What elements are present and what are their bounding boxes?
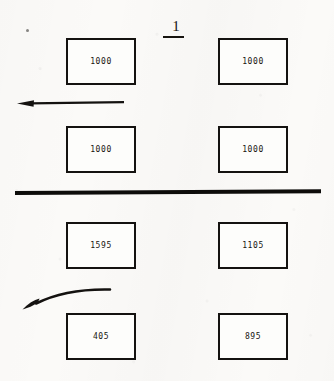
diagram-box: 1000 <box>218 38 288 85</box>
straight-arrow-left-icon <box>14 95 126 111</box>
diagram-box-label: 895 <box>245 332 261 341</box>
scan-speck-artifact <box>26 29 29 32</box>
diagram-box-label: 405 <box>93 332 109 341</box>
diagram-box-label: 1000 <box>90 145 112 154</box>
diagram-box-label: 1105 <box>242 241 264 250</box>
section-divider-rule <box>15 189 321 195</box>
diagram-box: 1595 <box>66 222 136 269</box>
diagram-box: 1105 <box>218 222 288 269</box>
figure-number-underline <box>163 36 184 38</box>
diagram-box: 1000 <box>218 126 288 173</box>
diagram-box-label: 1000 <box>90 57 112 66</box>
diagram-box: 1000 <box>66 38 136 85</box>
curved-arrow-left-icon <box>18 284 112 312</box>
figure-page: 1 1000 1000 1000 1000 1595 1105 405 895 <box>0 0 334 381</box>
diagram-box-label: 1000 <box>242 57 264 66</box>
diagram-box: 1000 <box>66 126 136 173</box>
diagram-box-label: 1000 <box>242 145 264 154</box>
figure-number-label: 1 <box>163 19 189 34</box>
diagram-box: 405 <box>66 313 136 360</box>
diagram-box-label: 1595 <box>90 241 112 250</box>
diagram-box: 895 <box>218 313 288 360</box>
